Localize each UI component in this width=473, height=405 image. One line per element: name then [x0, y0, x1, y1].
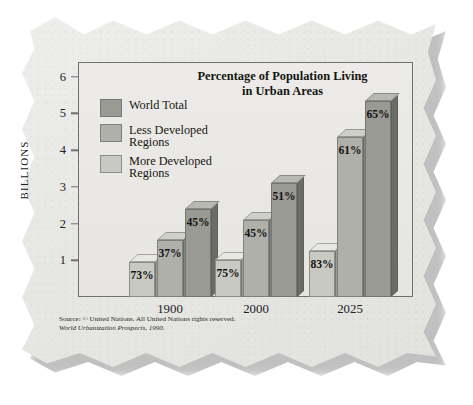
legend-label: World Total: [129, 99, 187, 112]
bar-front-face: [365, 101, 391, 297]
legend-label: Less DevelopedRegions: [129, 124, 208, 148]
bar-value-label: 65%: [365, 108, 391, 121]
y-tick-mark: [71, 76, 79, 77]
bar-value-label: 45%: [185, 216, 211, 229]
x-tick-label: 1900: [140, 302, 200, 317]
bar-value-label: 45%: [243, 227, 269, 240]
legend-swatch: [100, 124, 122, 142]
y-tick-label: 6: [60, 69, 66, 84]
legend-label: More DevelopedRegions: [129, 155, 212, 179]
bar-value-label: 37%: [157, 247, 183, 260]
y-tick-label: 3: [60, 179, 66, 194]
source-note: Source: © United Nations. All United Nat…: [59, 315, 235, 333]
legend-item: World Total: [100, 99, 212, 117]
x-tick-label: 2000: [226, 302, 286, 317]
y-tick-mark: [71, 223, 79, 224]
chart-title: Percentage of Population Living in Urban…: [160, 69, 405, 99]
bar-front-face: [337, 137, 363, 297]
bar-side-face: [297, 177, 304, 297]
y-tick-mark: [71, 149, 79, 150]
y-axis-title: BILLIONS: [18, 141, 30, 200]
y-tick-mark: [71, 113, 79, 114]
chart-legend: World TotalLess DevelopedRegionsMore Dev…: [100, 99, 212, 186]
source-line-2: World Urbanization Prospects, 1990.: [59, 324, 165, 332]
bar-side-face: [391, 94, 398, 297]
y-tick-label: 1: [60, 253, 66, 268]
bar: [365, 101, 391, 297]
bar-value-label: 75%: [215, 267, 241, 280]
y-tick-label: 2: [60, 216, 66, 231]
y-axis: 123456: [0, 0, 66, 405]
bar-value-label: 73%: [129, 269, 155, 282]
chart-title-line2: in Urban Areas: [242, 84, 323, 98]
y-tick-label: 5: [60, 106, 66, 121]
legend-item: More DevelopedRegions: [100, 155, 212, 179]
y-tick-label: 4: [60, 143, 66, 158]
y-tick-mark: [71, 260, 79, 261]
legend-swatch: [100, 155, 122, 173]
bar: [337, 137, 363, 297]
x-tick-label: 2025: [320, 302, 380, 317]
y-tick-mark: [71, 186, 79, 187]
legend-swatch: [100, 99, 122, 117]
bar-value-label: 61%: [337, 144, 363, 157]
figure-page: 123456 BILLIONS Percentage of Population…: [0, 0, 473, 405]
bar-value-label: 83%: [309, 258, 335, 271]
legend-item: Less DevelopedRegions: [100, 124, 212, 148]
chart-title-line1: Percentage of Population Living: [197, 69, 367, 83]
bar-value-label: 51%: [271, 190, 297, 203]
